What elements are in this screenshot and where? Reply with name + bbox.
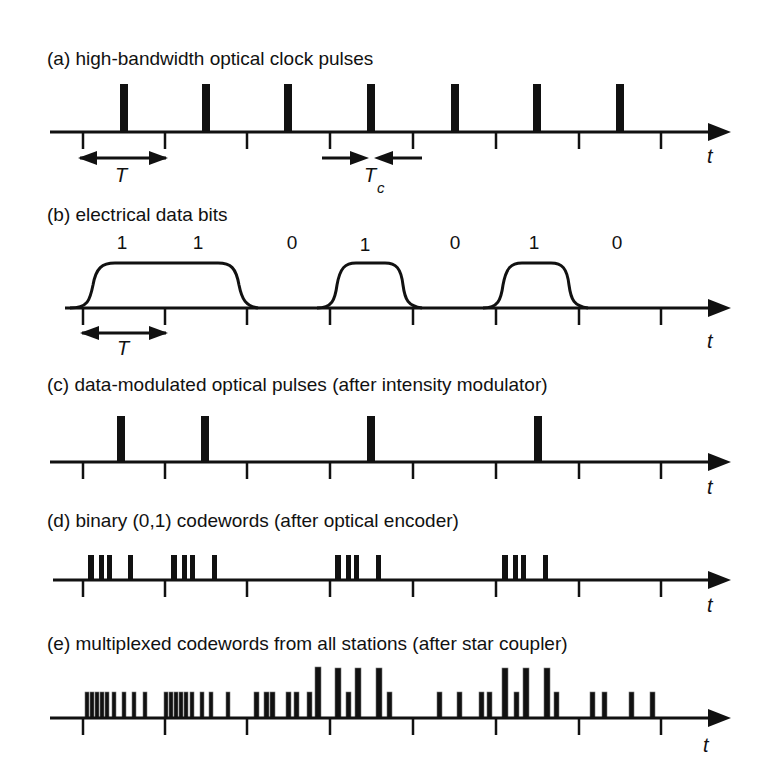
axis-arrow-icon	[708, 709, 731, 727]
panel-a-title: (a) high-bandwidth optical clock pulses	[47, 48, 373, 69]
time-axis-d: t	[53, 571, 731, 616]
period-T-arrow-b: T	[80, 326, 168, 359]
time-axis-c: t	[50, 453, 731, 498]
svg-text:0: 0	[612, 232, 623, 253]
period-T-arrow: T	[78, 151, 168, 186]
panel-a: (a) high-bandwidth optical clock pulses …	[47, 48, 731, 196]
bit-labels: 1 1 0 1 0 1 0	[117, 232, 623, 255]
panel-b: (b) electrical data bits 1 1 0 1 0 1 0 t	[47, 204, 731, 359]
svg-text:1: 1	[529, 232, 540, 253]
panel-c: (c) data-modulated optical pulses (after…	[47, 374, 731, 498]
svg-text:1: 1	[193, 232, 204, 253]
cdma-timing-diagram: (a) high-bandwidth optical clock pulses …	[0, 0, 772, 780]
period-T-label-b: T	[117, 337, 131, 359]
codeword-chips	[88, 555, 548, 580]
period-T-label: T	[115, 164, 129, 186]
axis-label-t: t	[707, 594, 714, 616]
panel-e-title: (e) multiplexed codewords from all stati…	[47, 633, 568, 654]
axis-arrow-icon	[708, 571, 731, 589]
axis-label-t: t	[703, 734, 710, 756]
axis-arrow-icon	[708, 453, 731, 471]
axis-arrow-icon	[708, 123, 731, 141]
svg-text:0: 0	[287, 232, 298, 253]
svg-text:0: 0	[450, 232, 461, 253]
panel-b-title: (b) electrical data bits	[47, 204, 228, 225]
clock-pulses	[120, 84, 624, 132]
chip-Tc-arrows: T c	[322, 151, 422, 196]
svg-text:1: 1	[117, 232, 128, 253]
axis-arrow-icon	[708, 299, 731, 317]
chip-Tc-subscript: c	[377, 179, 385, 196]
modulated-pulses	[117, 416, 542, 462]
data-waveform	[70, 263, 588, 308]
svg-text:1: 1	[360, 234, 371, 255]
axis-label-t: t	[707, 145, 714, 167]
axis-label-t: t	[707, 476, 714, 498]
panel-e: (e) multiplexed codewords from all stati…	[47, 633, 731, 756]
chip-Tc-label: T	[364, 164, 378, 186]
panel-d: (d) binary (0,1) codewords (after optica…	[47, 510, 731, 616]
time-axis-b: t	[65, 299, 731, 352]
panel-d-title: (d) binary (0,1) codewords (after optica…	[47, 510, 459, 531]
multiplexed-chips	[85, 667, 655, 718]
axis-label-t: t	[707, 330, 714, 352]
panel-c-title: (c) data-modulated optical pulses (after…	[47, 374, 548, 395]
